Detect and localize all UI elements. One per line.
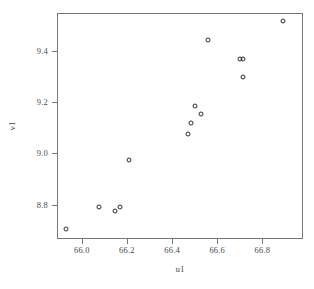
data-point bbox=[206, 37, 211, 42]
y-tick-label: 9.0 bbox=[37, 148, 48, 158]
x-tick-label: 66.8 bbox=[255, 245, 271, 255]
data-point bbox=[96, 205, 101, 210]
y-tick-label: 9.2 bbox=[37, 97, 48, 107]
x-tick-label: 66.2 bbox=[119, 245, 135, 255]
y-tick-label: 9.4 bbox=[37, 46, 48, 56]
x-tick-mark bbox=[82, 239, 83, 244]
data-point bbox=[64, 226, 69, 231]
x-axis-label: u1 bbox=[176, 264, 185, 274]
y-tick-mark bbox=[52, 102, 57, 103]
x-tick-label: 66.6 bbox=[209, 245, 225, 255]
x-tick-mark bbox=[217, 239, 218, 244]
data-point bbox=[189, 120, 194, 125]
x-tick-mark bbox=[127, 239, 128, 244]
scatter-plot: 66.066.266.466.666.8 8.89.09.29.4 u1 v1 bbox=[0, 0, 314, 289]
x-tick-mark bbox=[172, 239, 173, 244]
data-point bbox=[118, 205, 123, 210]
data-point bbox=[241, 56, 246, 61]
y-tick-mark bbox=[52, 153, 57, 154]
x-tick-label: 66.4 bbox=[164, 245, 180, 255]
data-point bbox=[199, 111, 204, 116]
y-tick-mark bbox=[52, 51, 57, 52]
x-tick-label: 66.0 bbox=[74, 245, 90, 255]
y-tick-mark bbox=[52, 205, 57, 206]
x-tick-mark bbox=[262, 239, 263, 244]
y-tick-label: 8.8 bbox=[37, 200, 48, 210]
data-point bbox=[192, 104, 197, 109]
data-point bbox=[112, 208, 117, 213]
data-point bbox=[280, 18, 285, 23]
plot-frame bbox=[57, 13, 303, 239]
data-point bbox=[241, 74, 246, 79]
data-point bbox=[127, 157, 132, 162]
y-axis-label: v1 bbox=[7, 122, 17, 131]
data-point bbox=[185, 132, 190, 137]
